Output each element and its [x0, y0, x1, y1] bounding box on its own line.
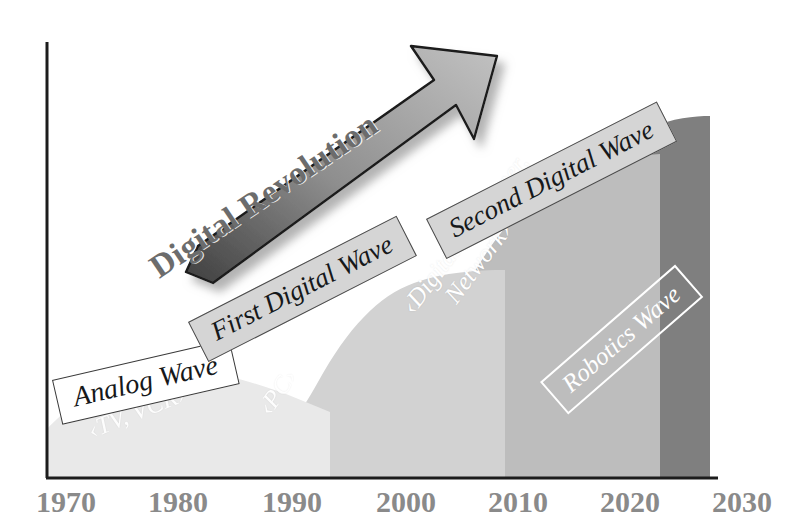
waves-canvas: [0, 0, 808, 531]
x-tick-1970: 1970: [36, 487, 96, 517]
x-tick-2010: 2010: [488, 487, 548, 517]
x-tick-1990: 1990: [262, 487, 322, 517]
x-tick-2020: 2020: [600, 487, 660, 517]
x-tick-2000: 2000: [376, 487, 436, 517]
x-tick-2030: 2030: [712, 487, 772, 517]
technology-waves-figure: Digital Revolution ‹TV, VCR› ‹PC› ‹Digit…: [0, 0, 808, 531]
x-tick-1980: 1980: [148, 487, 208, 517]
